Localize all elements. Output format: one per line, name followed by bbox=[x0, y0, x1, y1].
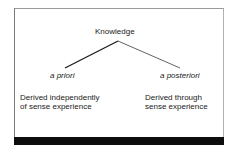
a-posteriori-description: Derived through sense experience bbox=[145, 93, 208, 111]
a-priori-description-line-1: Derived independently bbox=[20, 93, 100, 102]
a-priori-description-line-2: of sense experience bbox=[20, 102, 100, 111]
connector-to-a-posteriori bbox=[118, 41, 180, 68]
footer-bar bbox=[14, 137, 224, 145]
connector-to-a-priori bbox=[65, 41, 118, 68]
root-node-knowledge: Knowledge bbox=[95, 27, 135, 36]
branch-label-a-priori: a priori bbox=[50, 71, 74, 80]
branch-label-a-posteriori: a posteriori bbox=[160, 71, 200, 80]
a-posteriori-description-line-2: sense experience bbox=[145, 102, 208, 111]
a-priori-description: Derived independently of sense experienc… bbox=[20, 93, 100, 111]
a-posteriori-description-line-1: Derived through bbox=[145, 93, 208, 102]
tree-connectors bbox=[0, 0, 239, 153]
